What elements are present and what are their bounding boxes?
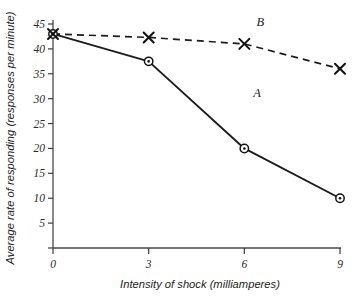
- x-tick-label: 9: [337, 258, 343, 270]
- data-point-b-2: [239, 39, 249, 49]
- series-inline-labels: AB: [252, 15, 264, 100]
- curve-label-a: A: [252, 86, 261, 100]
- curve-label-b: B: [256, 15, 264, 29]
- chart-figure: 51015202530354045 0369 AB Intensity of s…: [0, 0, 357, 300]
- y-tick-label: 5: [39, 217, 45, 229]
- y-tick-label: 25: [34, 118, 46, 130]
- x-axis-ticks: [53, 248, 340, 254]
- y-tick-label: 40: [34, 43, 46, 55]
- data-point-a-2: [240, 144, 248, 152]
- x-tick-label: 6: [241, 258, 247, 270]
- marker-center-dot: [147, 60, 150, 63]
- marker-center-dot: [243, 147, 246, 150]
- y-tick-label: 30: [33, 93, 46, 105]
- line-chart-canvas: 51015202530354045 0369 AB Intensity of s…: [0, 0, 357, 300]
- y-tick-label: 20: [34, 142, 46, 154]
- data-point-b-3: [335, 64, 345, 74]
- data-point-a-3: [336, 194, 344, 202]
- series-line-a: [53, 34, 340, 198]
- y-tick-label: 15: [34, 167, 46, 179]
- y-axis-ticks: [48, 24, 53, 248]
- data-point-a-1: [144, 57, 152, 65]
- y-tick-label: 35: [33, 68, 46, 80]
- y-axis-title: Average rate of responding (responses pe…: [4, 11, 16, 265]
- x-tick-label: 0: [50, 258, 56, 270]
- series-markers-group: [48, 29, 345, 202]
- x-axis-title: Intensity of shock (milliamperes): [120, 278, 280, 290]
- y-tick-label: 10: [34, 192, 46, 204]
- series-lines-group: [53, 34, 340, 198]
- x-tick-label: 3: [145, 258, 152, 270]
- y-tick-label: 45: [34, 18, 46, 30]
- series-line-b: [53, 34, 340, 69]
- x-axis-tick-labels: 0369: [50, 258, 343, 270]
- marker-center-dot: [339, 197, 342, 200]
- y-axis-tick-labels: 51015202530354045: [33, 18, 46, 229]
- plot-axes: [53, 20, 341, 248]
